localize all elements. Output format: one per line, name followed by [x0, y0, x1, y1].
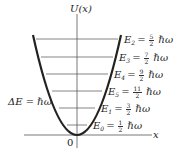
spacing-label: ΔE = ℏω	[8, 96, 52, 107]
origin-label: 0	[67, 137, 73, 148]
energy-label: E5=112 ℏω	[108, 86, 161, 100]
energy-label: E2=52 ℏω	[124, 34, 173, 48]
x-axis-label: x	[153, 129, 159, 140]
energy-label: E1=32 ℏω	[101, 103, 150, 117]
energy-label: E0=12 ℏω	[93, 120, 142, 134]
energy-label: E4=92 ℏω	[114, 69, 163, 83]
y-axis-label: U(x)	[70, 3, 92, 14]
energy-label: E3=72 ℏω	[119, 52, 168, 66]
